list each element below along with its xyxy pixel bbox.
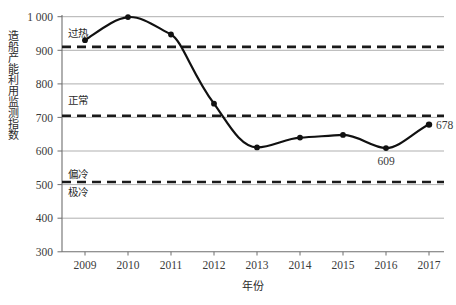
line-chart-svg: 1 000 900 800 700 600 500 400 300 2009 2… [0, 0, 456, 305]
y-axis-ticks [58, 17, 63, 252]
y-tick-label: 500 [36, 179, 54, 191]
data-point-2013 [254, 145, 260, 151]
x-tick-label: 2010 [117, 259, 140, 271]
x-axis-title: 年份 [242, 279, 264, 293]
zone-label-cool: 偏冷 [68, 168, 89, 180]
y-tick-label: 800 [36, 78, 54, 90]
x-tick-label: 2014 [289, 259, 312, 271]
y-tick-label: 1 000 [27, 11, 53, 23]
zone-label-very-cold: 极冷 [68, 186, 89, 198]
x-tick-label: 2017 [418, 259, 441, 271]
x-tick-label: 2016 [375, 259, 398, 271]
data-point-2012 [211, 101, 217, 107]
data-label-678: 678 [436, 119, 454, 131]
x-tick-label: 2011 [160, 259, 183, 271]
x-tick-label: 2013 [246, 259, 269, 271]
data-point-2016 [383, 145, 389, 151]
zone-label-overheated: 过热 [68, 27, 89, 39]
data-point-2010 [125, 14, 131, 20]
data-point-2014 [297, 135, 303, 141]
x-axis-ticks [85, 252, 429, 256]
data-point-2011 [168, 32, 174, 38]
data-point-2015 [340, 132, 346, 138]
x-tick-label: 2015 [332, 259, 355, 271]
data-label-609: 609 [377, 155, 395, 167]
data-point-2017 [426, 121, 432, 127]
y-axis-title: 造船产能利用监测指数 [6, 29, 20, 141]
y-tick-label: 400 [36, 212, 54, 224]
x-tick-label: 2009 [74, 259, 97, 271]
chart-figure: 1 000 900 800 700 600 500 400 300 2009 2… [0, 0, 456, 305]
y-tick-label: 300 [36, 246, 54, 258]
x-tick-label: 2012 [203, 259, 226, 271]
y-tick-label: 700 [36, 112, 54, 124]
y-tick-label: 600 [36, 145, 54, 157]
y-tick-label: 900 [36, 45, 54, 57]
data-point-2009 [82, 37, 88, 43]
zone-label-normal: 正常 [68, 94, 88, 106]
